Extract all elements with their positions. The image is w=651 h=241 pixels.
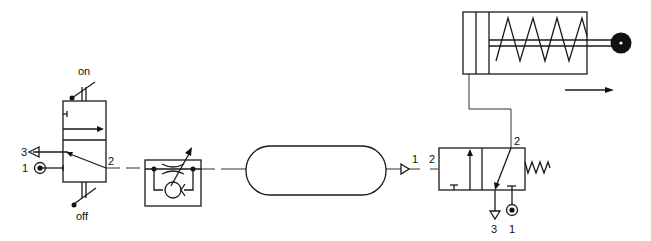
pilot-icon [401, 164, 409, 174]
label-on: on [78, 65, 90, 77]
lever-knob-icon [72, 203, 77, 208]
arrow-head-icon [97, 126, 104, 132]
spring-icon [525, 162, 550, 173]
air-reservoir [246, 146, 386, 195]
cylinder [463, 12, 632, 93]
label-port-3: 3 [21, 146, 27, 158]
label-off: off [76, 210, 89, 222]
label-port-2: 2 [514, 135, 520, 147]
label-pilot-1: 1 [412, 153, 418, 165]
reservoir-body [246, 146, 386, 195]
exhaust-icon [490, 211, 500, 219]
label-port-1: 1 [509, 223, 515, 235]
direction-arrow-icon [605, 87, 614, 93]
pilot-valve: 1 2 3 1 2 [401, 74, 550, 235]
arrow-head-icon [467, 149, 473, 156]
flow-control-valve [145, 147, 201, 206]
manual-valve: on off 3 1 2 [21, 65, 114, 222]
lever-knob-icon [70, 96, 75, 101]
adjust-arrow-icon [185, 147, 192, 156]
label-pilot-2: 2 [429, 153, 435, 165]
arrow-head-icon [66, 152, 73, 157]
manual-valve-body [63, 101, 106, 182]
label-port-1: 1 [22, 162, 28, 174]
arrow-head-icon [494, 182, 500, 190]
label-port-2: 2 [108, 155, 114, 167]
pneumatic-circuit-diagram: on off 3 1 2 1 2 [0, 0, 651, 241]
label-port-3: 3 [491, 223, 497, 235]
check-ball-icon [165, 182, 181, 198]
